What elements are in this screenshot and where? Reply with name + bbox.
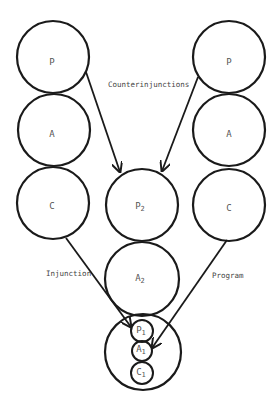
right-parent-a-circle: A <box>193 94 265 166</box>
left-parent-a-label: A <box>49 129 55 139</box>
right-parent-a-label: A <box>226 129 232 139</box>
counterinjunctions-label: Counterinjunctions <box>108 80 189 89</box>
child-p1-circle: P1 <box>131 320 153 342</box>
child: P2 A2 P1 A1 C1 <box>105 169 181 390</box>
right-parent-c-label: C <box>226 203 231 213</box>
child-a2-circle: A2 <box>105 242 179 316</box>
right-parent: P A C <box>193 21 265 241</box>
left-parent-c-circle: C <box>17 167 89 239</box>
child-c1-label: C1 <box>136 367 146 379</box>
left-parent-p-circle: P <box>17 21 89 93</box>
left-parent-p-label: P <box>49 57 55 67</box>
left-parent-c-label: C <box>49 201 54 211</box>
script-matrix-diagram: P A C P A C P2 A2 <box>0 0 280 406</box>
program-arrow <box>152 240 227 348</box>
left-parent-a-circle: A <box>18 94 90 166</box>
right-parent-p-label: P <box>226 57 232 67</box>
program-label: Program <box>212 271 244 280</box>
child-c2-circle: P1 A1 C1 <box>105 314 181 390</box>
injunction-arrow <box>66 238 131 327</box>
child-p2-label: P2 <box>135 201 145 213</box>
child-a2-label: A2 <box>135 273 145 285</box>
injunction-label: Injunction <box>46 269 91 278</box>
child-p2-circle: P2 <box>106 169 178 241</box>
child-a1-circle: A1 <box>132 341 152 361</box>
right-parent-c-circle: C <box>193 169 265 241</box>
right-parent-p-circle: P <box>193 21 265 93</box>
child-c1-circle: C1 <box>131 362 153 384</box>
left-parent: P A C <box>17 21 90 239</box>
child-a1-label: A1 <box>136 344 146 356</box>
child-p1-label: P1 <box>136 325 146 337</box>
